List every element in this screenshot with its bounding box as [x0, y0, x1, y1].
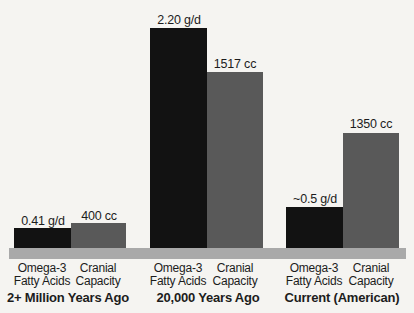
axis-label-cranial-2m: Cranial Capacity	[63, 262, 133, 288]
bar-omega3-2m	[14, 228, 71, 249]
value-label-cranial-20k: 1517 cc	[200, 57, 270, 71]
bar-omega3-current	[286, 207, 343, 249]
bar-omega3-20k	[150, 28, 207, 249]
value-label-omega3-20k: 2.20 g/d	[144, 13, 214, 27]
value-label-cranial-current: 1350 cc	[336, 117, 406, 131]
axis-label-cranial-20k: Cranial Capacity	[200, 262, 270, 288]
bar-cranial-20k	[207, 72, 263, 249]
baseline-strip	[9, 248, 406, 259]
bar-cranial-2m	[71, 223, 126, 249]
axis-label-cranial-current: Cranial Capacity	[336, 262, 406, 288]
bar-cranial-current	[343, 133, 399, 249]
value-label-cranial-2m: 400 cc	[64, 209, 134, 223]
group-title-20k: 20,000 Years Ago	[140, 290, 276, 305]
bar-chart: 0.41 g/d 400 cc 2.20 g/d 1517 cc ~0.5 g/…	[0, 0, 414, 313]
group-title-2m: 2+ Million Years Ago	[0, 290, 136, 305]
group-title-current: Current (American)	[274, 290, 410, 305]
value-label-omega3-current: ~0.5 g/d	[280, 192, 350, 206]
